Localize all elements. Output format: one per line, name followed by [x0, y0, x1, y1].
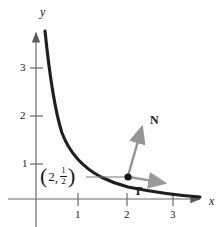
point-y-fraction: 1 2	[60, 166, 67, 187]
x-tick-label-2: 2	[124, 209, 130, 220]
open-paren: (	[40, 167, 47, 186]
y-axis	[30, 33, 43, 227]
y-axis-label: y	[40, 6, 45, 18]
close-paren: )	[68, 167, 75, 186]
normal-vector-label: N	[150, 114, 159, 126]
x-tick-label-3: 3	[170, 209, 176, 220]
fraction-numerator: 1	[60, 166, 67, 175]
y-tick-label-1: 1	[22, 158, 28, 169]
graph-figure: y x 3 2 1 1 2 3 ( 2 , 1 2 ) N T	[0, 0, 224, 227]
fraction-denominator: 2	[60, 177, 67, 186]
y-tick-label-3: 3	[20, 62, 26, 73]
coordinate-comma: ,	[55, 168, 58, 184]
tangency-point-marker	[124, 173, 131, 180]
tangent-vector-T	[129, 177, 165, 183]
y-tick-label-2: 2	[20, 110, 26, 121]
x-tick-label-1: 1	[75, 209, 81, 220]
coordinate-contents: 2 , 1 2	[47, 166, 68, 187]
tangent-vector-label: T	[134, 185, 142, 197]
point-coordinate-label: ( 2 , 1 2 )	[40, 166, 75, 187]
x-axis-label: x	[209, 195, 214, 207]
graph-canvas	[0, 0, 224, 227]
normal-vector-N	[128, 127, 142, 176]
